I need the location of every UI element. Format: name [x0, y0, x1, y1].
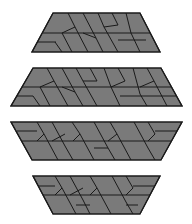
trapezoid-1	[32, 13, 160, 52]
trapezoid-3	[11, 122, 182, 160]
rhombus-tiling-diagram	[0, 0, 192, 224]
tiling-figure	[0, 0, 192, 224]
trapezoid-4	[33, 176, 160, 214]
trapezoid-2	[11, 68, 182, 106]
